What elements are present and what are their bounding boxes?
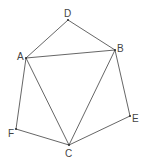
edges-group [16,20,130,145]
segment-AF [16,58,26,129]
label-D: D [64,8,71,19]
vertex-A [25,57,27,59]
segment-FC [16,129,69,145]
vertex-C [68,144,70,146]
segment-DB [68,20,115,50]
vertices-group [15,19,131,146]
segment-BC [69,50,115,145]
segment-AB [26,50,115,58]
segment-EC [69,116,130,145]
vertex-E [129,115,131,117]
vertex-D [67,19,69,21]
label-C: C [65,148,72,159]
vertex-F [15,128,17,130]
segment-BE [115,50,130,116]
label-B: B [117,43,124,54]
label-F: F [8,128,14,139]
vertex-B [114,49,116,51]
segment-AC [26,58,69,145]
segment-AD [26,20,68,58]
label-E: E [132,113,139,124]
geometry-diagram: A B C D E F [0,0,149,161]
label-A: A [17,51,24,62]
